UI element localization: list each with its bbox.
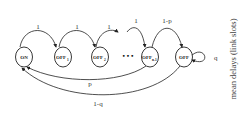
svg-text:OFF: OFF: [142, 55, 152, 60]
edge-on-off1: [20, 31, 56, 48]
node-on: ON: [16, 47, 33, 67]
svg-text:ON: ON: [20, 55, 28, 60]
side-label: mean delays (link slots): [226, 6, 240, 112]
node-off-n-1: OFF n-1: [142, 47, 159, 67]
svg-text:p: p: [88, 80, 92, 88]
edge-off-on: [22, 66, 180, 95]
markov-chain-diagram: ON OFF 1 OFF 2 • • • OFF n-1 OFF 1 1 1 1…: [0, 0, 243, 116]
node-off-1: OFF 1: [55, 47, 72, 67]
edge-offn1-off: [152, 28, 182, 47]
node-off-2: OFF 2: [92, 47, 109, 67]
svg-text:1-p: 1-p: [162, 17, 172, 25]
edge-off-self: [192, 52, 205, 62]
svg-text:1: 1: [67, 58, 69, 62]
svg-text:1: 1: [75, 23, 79, 31]
svg-text:1: 1: [107, 23, 111, 31]
svg-text:OFF: OFF: [93, 55, 103, 60]
svg-text:2: 2: [104, 58, 106, 62]
edge-off1-off2: [59, 31, 95, 48]
svg-text:q: q: [214, 54, 218, 62]
edge-ellipsis-offn1: [127, 28, 145, 47]
edge-off2-ellipsis: [96, 30, 118, 47]
svg-text:1-q: 1-q: [93, 100, 103, 108]
svg-text:OFF: OFF: [179, 55, 189, 60]
svg-text:1: 1: [36, 23, 40, 31]
svg-text:n-1: n-1: [152, 58, 157, 62]
svg-text:1: 1: [134, 17, 138, 25]
node-off: OFF: [176, 47, 193, 67]
edge-offn1-on: [27, 66, 146, 80]
ellipsis: • • •: [123, 52, 134, 60]
svg-text:OFF: OFF: [56, 55, 66, 60]
